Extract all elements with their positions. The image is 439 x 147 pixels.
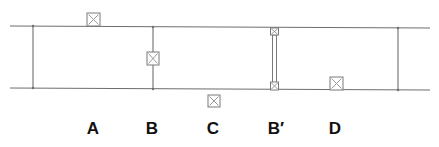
- joint-dot: [32, 25, 34, 27]
- label-b: B: [146, 119, 158, 139]
- box-d-icon: [330, 77, 343, 90]
- bottom-line: [10, 88, 430, 90]
- rod-top-box: [271, 28, 279, 35]
- box-c-icon: [208, 95, 220, 107]
- label-a: A: [87, 119, 99, 139]
- joint-dot: [152, 88, 154, 90]
- label-d: D: [329, 119, 341, 139]
- joint-dot: [152, 26, 154, 28]
- boundary-lines: [10, 26, 430, 90]
- rod-b-prime-icon: [271, 28, 279, 90]
- label-b-prime: B′: [268, 119, 284, 139]
- joint-dot: [397, 89, 399, 91]
- box-a-icon: [87, 13, 100, 26]
- joint-dot: [32, 87, 34, 89]
- rod-bottom-box: [271, 82, 279, 90]
- diagram-canvas: [0, 0, 439, 147]
- joints: [32, 25, 399, 91]
- top-line: [10, 26, 430, 28]
- joint-dot: [397, 27, 399, 29]
- label-c: C: [207, 119, 219, 139]
- rod-body: [273, 35, 277, 83]
- box-b-icon: [147, 52, 159, 65]
